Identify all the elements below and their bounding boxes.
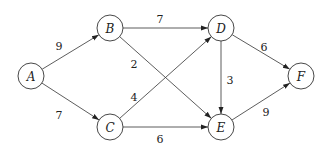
- edge-weight-label: 9: [263, 106, 270, 119]
- edge-weight-label: 3: [227, 74, 234, 87]
- edge-d-f: 6: [232, 35, 290, 70]
- node-label: D: [215, 22, 226, 36]
- edge-c-e: 6: [123, 127, 208, 146]
- graph-diagram: 977246369 ABCDEF: [0, 0, 333, 150]
- edge-weight-label: 2: [131, 58, 138, 71]
- node-e: E: [208, 114, 234, 140]
- node-f: F: [288, 63, 314, 89]
- node-label: E: [216, 121, 226, 135]
- edge-weight-label: 7: [157, 13, 164, 26]
- node-a: A: [18, 63, 44, 89]
- edge-b-d: 7: [123, 13, 208, 28]
- edge-a-c: 7: [42, 83, 99, 122]
- edge-weight-label: 6: [157, 133, 164, 146]
- edge-arrow-line: [42, 83, 99, 120]
- edge-arrow-line: [42, 35, 99, 69]
- edge-weight-label: 6: [261, 41, 268, 54]
- node-d: D: [208, 15, 234, 41]
- node-b: B: [97, 15, 123, 41]
- node-label: A: [26, 70, 36, 84]
- edge-d-e: 3: [221, 41, 234, 114]
- node-label: F: [296, 70, 306, 84]
- edges-layer: 977246369: [42, 13, 290, 146]
- edge-arrow-line: [232, 83, 290, 120]
- node-label: B: [105, 22, 115, 36]
- node-label: C: [105, 121, 114, 135]
- edge-e-f: 9: [232, 83, 290, 120]
- edge-weight-label: 4: [131, 91, 138, 104]
- edge-weight-label: 7: [56, 109, 63, 122]
- edge-a-b: 9: [42, 35, 99, 69]
- node-c: C: [97, 114, 123, 140]
- edge-weight-label: 9: [56, 40, 63, 53]
